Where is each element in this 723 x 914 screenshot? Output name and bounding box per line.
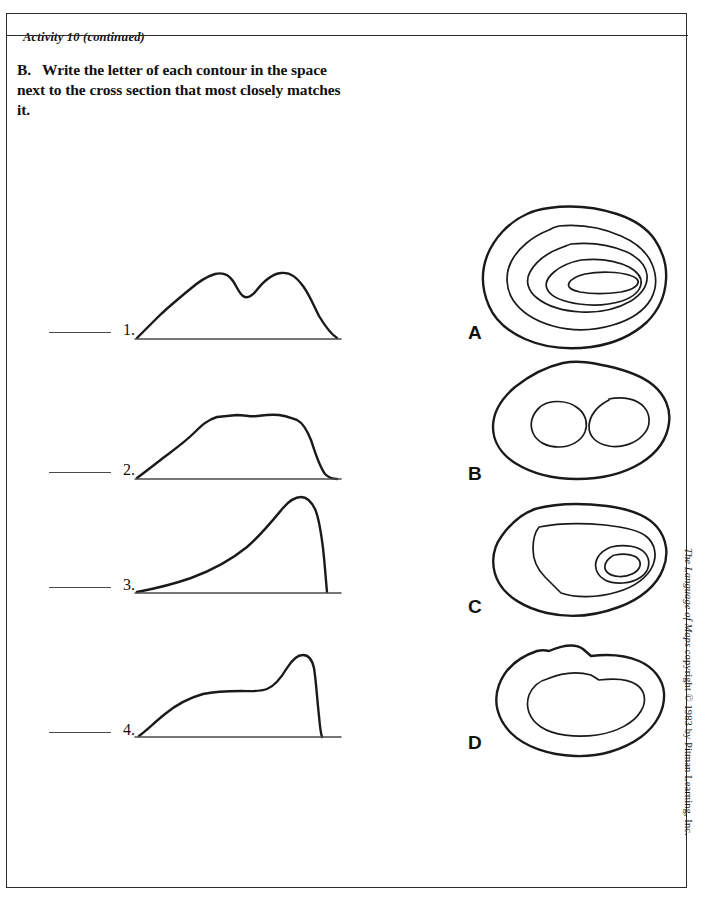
running-head: Activity 10 (continued) (23, 30, 145, 45)
answer-blank-2[interactable] (49, 472, 111, 473)
contour-map-c (475, 497, 675, 625)
copyright-rest: copyright © 1983 by Pitman Learning, Inc… (683, 647, 694, 836)
copyright-notice: The Language of Maps copyright © 1983 by… (683, 548, 694, 848)
copyright-title: The Language of Maps (683, 548, 694, 647)
contour-map-row-d: D (457, 629, 672, 769)
answer-blank-4[interactable] (49, 732, 111, 733)
cross-section-profile-4 (133, 644, 343, 742)
instructions-block: B.Write the letter of each contour in th… (17, 60, 347, 120)
cross-section-profile-3 (133, 492, 343, 598)
contour-map-a (475, 204, 675, 352)
answer-blank-3[interactable] (49, 587, 111, 588)
header-rule (7, 35, 688, 36)
cross-section-profile-2 (133, 400, 343, 484)
instructions-text: Write the letter of each contour in the … (17, 61, 341, 118)
part-letter: B. (17, 61, 31, 78)
worksheet-page-frame: Activity 10 (continued) B.Write the lett… (6, 13, 687, 888)
contour-map-row-b: B (457, 359, 672, 489)
answer-blank-1[interactable] (49, 332, 111, 333)
contour-map-d (475, 629, 675, 767)
cross-section-profile-1 (133, 260, 343, 344)
contour-map-row-c: C (457, 497, 672, 627)
contour-map-row-a: A (457, 204, 672, 354)
contour-map-b (475, 359, 675, 487)
